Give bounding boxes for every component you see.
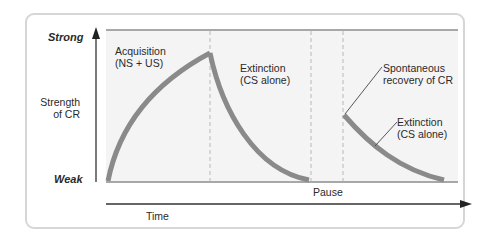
extinction-1-label-line1: Extinction: [240, 62, 286, 74]
y-axis-arrow-icon: [92, 27, 100, 39]
recovery-label-line2: recovery of CR: [383, 74, 453, 86]
y-label-strong: Strong: [48, 31, 83, 43]
time-axis-label: Time: [146, 210, 169, 222]
acquisition-label-line1: Acquisition: [115, 45, 166, 57]
y-axis-title-line1: Strength: [38, 96, 80, 108]
recovery-label-line1: Spontaneous: [383, 62, 445, 74]
extinction-1-label-line2: (CS alone): [240, 74, 290, 86]
acquisition-label-line2: (NS + US): [115, 57, 163, 69]
y-label-weak: Weak: [54, 173, 83, 185]
extinction-2-label-line2: (CS alone): [397, 128, 447, 140]
extinction-2-label-line1: Extinction: [397, 116, 443, 128]
y-axis-title-line2: of CR: [38, 108, 80, 120]
pause-label: Pause: [313, 186, 343, 198]
time-axis-arrow-icon: [460, 200, 472, 208]
